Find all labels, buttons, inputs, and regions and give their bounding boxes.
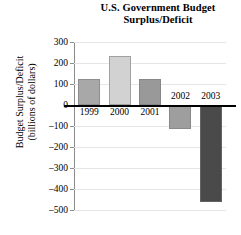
y-axis-tick (70, 147, 74, 148)
y-axis-tick-label: 100 (28, 79, 68, 89)
y-axis-tick (70, 168, 74, 169)
bar-1999 (78, 79, 100, 105)
plot-area: 3002001000–100–200–300–400–5001999200020… (74, 42, 226, 210)
y-axis-tick-label: –100 (28, 121, 68, 131)
y-axis-tick-label: –400 (28, 184, 68, 194)
y-axis-tick (70, 210, 74, 211)
y-axis-tick (70, 189, 74, 190)
chart-title-line-2: Surplus/Deficit (78, 14, 238, 26)
y-axis-tick-label: –300 (28, 163, 68, 173)
gridline (74, 63, 226, 64)
chart-title: U.S. Government Budget Surplus/Deficit (78, 2, 238, 25)
y-axis-tick-label: 0 (28, 100, 68, 110)
bar-2001 (139, 79, 161, 105)
y-axis-tick (70, 42, 74, 43)
y-axis-tick (70, 63, 74, 64)
bar-2002 (169, 105, 191, 129)
x-axis-label-2000: 2000 (110, 107, 129, 117)
chart-title-line-1: U.S. Government Budget (78, 2, 238, 14)
y-axis-tick-label: 300 (28, 37, 68, 47)
y-axis-tick-label: –200 (28, 142, 68, 152)
chart-container: U.S. Government Budget Surplus/Deficit B… (0, 0, 241, 235)
y-axis-title-line-1: Budget Surplus/Deficit (14, 22, 26, 182)
x-axis-label-2002: 2002 (171, 91, 190, 101)
gridline (74, 210, 226, 211)
bar-2000 (109, 56, 131, 105)
y-axis-tick-label: –500 (28, 205, 68, 215)
zero-axis-line (64, 105, 236, 107)
gridline (74, 42, 226, 43)
bar-2003 (200, 105, 222, 202)
x-axis-label-1999: 1999 (80, 107, 99, 117)
y-axis-tick (70, 126, 74, 127)
x-axis-label-2003: 2003 (201, 91, 220, 101)
x-axis-label-2001: 2001 (141, 107, 160, 117)
y-axis-tick (70, 84, 74, 85)
y-axis-tick-label: 200 (28, 58, 68, 68)
